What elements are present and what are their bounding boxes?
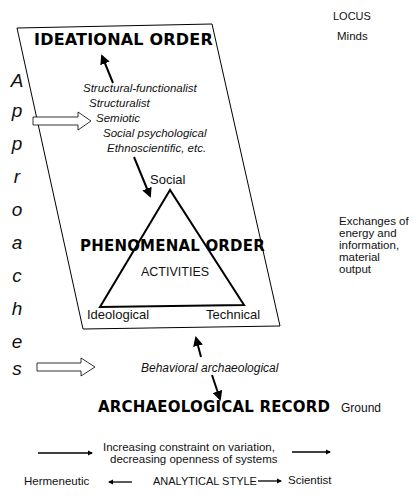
approaches-letter: h (7, 298, 27, 320)
locus-exchanges: Exchanges of energy and information, mat… (339, 215, 409, 275)
approach-ethnoscientific: Ethnoscientific, etc. (107, 142, 206, 154)
phenomenal-order-title: PHENOMENAL ORDER (80, 237, 265, 255)
locus-minds: Minds (337, 30, 368, 42)
exchanges-line: information, (339, 239, 409, 251)
locus-header: LOCUS (333, 10, 371, 22)
approaches-letter: p (7, 100, 27, 122)
hollow-arrow-lower (37, 358, 95, 376)
vertex-ideological: Ideological (87, 307, 149, 322)
ideational-order-title: IDEATIONAL ORDER (34, 30, 213, 49)
exchanges-line: material (339, 251, 409, 263)
archaeological-record-title: ARCHAEOLOGICAL RECORD (98, 398, 330, 416)
locus-ground: Ground (341, 401, 381, 415)
arrow-down-to-triangle (134, 157, 150, 196)
approaches-letter: p (7, 133, 27, 155)
analytical-left-hermeneutic: Hermeneutic (24, 475, 89, 487)
approaches-letter: o (7, 199, 27, 221)
approach-structural-functionalist: Structural-functionalist (83, 82, 197, 94)
approach-structuralist: Structuralist (89, 97, 150, 109)
arrow-down-behavioral (212, 375, 220, 399)
analytical-right-scientist: Scientist (288, 474, 331, 486)
approaches-letter: A (7, 70, 27, 92)
arrow-up-behavioral (196, 338, 201, 357)
exchanges-line: Exchanges of (339, 215, 409, 227)
exchanges-line: energy and (339, 227, 409, 239)
approach-social-psychological: Social psychological (103, 127, 207, 139)
approach-semiotic: Semiotic (96, 112, 140, 124)
approaches-letter: c (7, 265, 27, 287)
behavioral-archaeological-label: Behavioral archaeological (141, 361, 278, 375)
approaches-letter: r (7, 166, 27, 188)
approaches-letter: e (7, 331, 27, 353)
constraint-line-1: Increasing constraint on variation, (103, 441, 275, 453)
approaches-letter: a (7, 232, 27, 254)
activities-label: ACTIVITIES (141, 265, 209, 279)
vertex-technical: Technical (206, 307, 260, 322)
analytical-style-label: ANALYTICAL STYLE (153, 475, 257, 487)
arrow-up-ideational (102, 56, 113, 83)
constraint-line-2: decreasing openness of systems (110, 453, 277, 465)
exchanges-line: output (339, 263, 409, 275)
ideational-phenomenal-frame (17, 24, 280, 329)
hollow-arrow-upper (33, 112, 91, 130)
approaches-letter: s (7, 358, 27, 380)
vertex-social: Social (150, 172, 185, 187)
